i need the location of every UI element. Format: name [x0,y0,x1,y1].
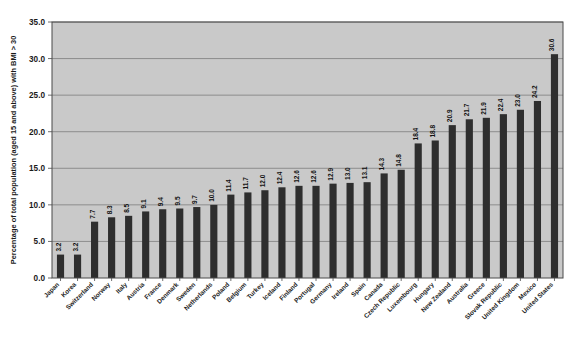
bar [381,173,388,278]
bar-value-label: 13.1 [361,166,368,179]
bar [312,186,319,278]
bar-value-label: 9.5 [174,196,181,205]
bar [295,186,302,278]
bar-value-label: 13.0 [344,167,351,180]
y-tick-label: 35.0 [29,18,45,27]
bar [483,118,490,278]
bar [329,184,336,278]
bar [517,110,524,278]
y-tick-label: 30.0 [29,55,45,64]
bar [261,190,268,278]
bar-value-label: 30.6 [548,38,555,51]
bar [534,101,541,278]
bar-value-label: 3.2 [55,242,62,251]
bar-value-label: 3.2 [72,242,79,251]
bar-value-label: 24.2 [531,85,538,98]
bar [227,195,234,278]
chart-canvas: 0.05.010.015.020.025.030.035.0 3.23.27.7… [0,0,582,339]
y-tick-label: 5.0 [34,237,46,246]
bar-value-label: 14.3 [378,157,385,170]
bar [398,170,405,278]
bar [57,255,64,278]
bar-value-label: 9.7 [191,195,198,204]
bar [278,187,285,278]
bar [364,182,371,278]
bar [142,211,149,278]
bar [500,114,507,278]
bar [551,54,558,278]
y-tick-label: 0.0 [34,274,46,283]
bar [466,119,473,278]
bar-value-label: 7.7 [89,209,96,218]
bar [193,207,200,278]
bar-value-label: 9.4 [157,197,164,206]
bar [159,209,166,278]
bar-value-label: 12.4 [276,171,283,184]
bar-value-label: 20.9 [446,109,453,122]
bar [244,192,251,278]
bar-value-label: 12.6 [310,170,317,183]
bar [432,140,439,278]
bar-value-label: 23.0 [514,94,521,107]
y-tick-label: 20.0 [29,128,45,137]
bar-value-label: 12.6 [293,170,300,183]
bar-value-label: 8.5 [123,203,130,212]
y-tick-label: 15.0 [29,164,45,173]
bar-value-label: 22.4 [497,98,504,111]
bar [449,125,456,278]
bar [74,255,81,278]
bar-value-label: 21.9 [480,102,487,115]
y-tick-label: 10.0 [29,201,45,210]
bar [415,143,422,278]
bar [347,183,354,278]
bar [108,217,115,278]
bar-value-label: 18.8 [429,124,436,137]
bar [210,205,217,278]
bar-value-label: 12.9 [327,168,334,181]
bar [91,222,98,278]
bar [125,216,132,278]
bar-value-label: 14.8 [395,154,402,167]
y-axis-title: Percentage of total population (aged 15 … [9,36,18,265]
bar-value-label: 11.4 [225,179,232,192]
bar-value-label: 9.1 [140,199,147,208]
bar-value-label: 18.4 [412,127,419,140]
bar [176,209,183,278]
bar-value-label: 11.7 [242,177,249,190]
bar-value-label: 12.0 [259,174,266,187]
bar-value-label: 8.3 [106,205,113,214]
bar-chart-obesity-by-country: 0.05.010.015.020.025.030.035.0 3.23.27.7… [0,0,582,339]
bar-value-label: 10.0 [208,189,215,202]
y-tick-label: 25.0 [29,91,45,100]
bar-value-label: 21.7 [463,103,470,116]
